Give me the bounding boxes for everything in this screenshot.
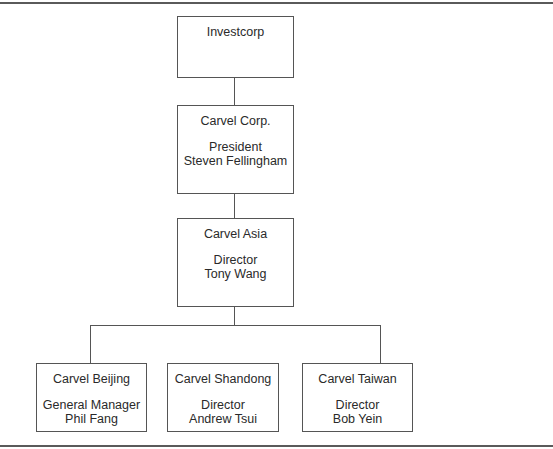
node-carvel-corp: Carvel Corp. President Steven Fellingham — [177, 105, 294, 194]
node-carvel-taiwan: Carvel Taiwan Director Bob Yein — [302, 363, 413, 432]
node-carvel-beijing: Carvel Beijing General Manager Phil Fang — [36, 363, 147, 432]
person-name: Phil Fang — [37, 412, 146, 426]
bottom-rule — [0, 445, 553, 447]
connector-to-beijing — [90, 325, 91, 363]
org-name: Carvel Beijing — [37, 372, 146, 386]
role-title: Director — [303, 398, 412, 412]
connector-investcorp-carvel-corp — [234, 77, 235, 105]
org-name: Investcorp — [178, 25, 293, 39]
role-title: President — [178, 140, 293, 154]
role-title: Director — [178, 253, 293, 267]
node-carvel-asia: Carvel Asia Director Tony Wang — [177, 218, 294, 307]
connector-horizontal-branch — [90, 325, 381, 326]
org-name: Carvel Asia — [178, 227, 293, 241]
top-rule — [0, 2, 553, 4]
connector-carvel-corp-carvel-asia — [234, 193, 235, 218]
role-title: Director — [168, 398, 278, 412]
org-name: Carvel Shandong — [168, 372, 278, 386]
connector-carvel-asia-down — [234, 306, 235, 326]
person-name: Steven Fellingham — [178, 154, 293, 168]
person-name: Bob Yein — [303, 412, 412, 426]
org-name: Carvel Corp. — [178, 114, 293, 128]
person-name: Andrew Tsui — [168, 412, 278, 426]
org-name: Carvel Taiwan — [303, 372, 412, 386]
node-carvel-shandong: Carvel Shandong Director Andrew Tsui — [167, 363, 279, 432]
connector-to-taiwan — [380, 325, 381, 363]
person-name: Tony Wang — [178, 267, 293, 281]
node-investcorp: Investcorp — [177, 16, 294, 78]
role-title: General Manager — [37, 398, 146, 412]
